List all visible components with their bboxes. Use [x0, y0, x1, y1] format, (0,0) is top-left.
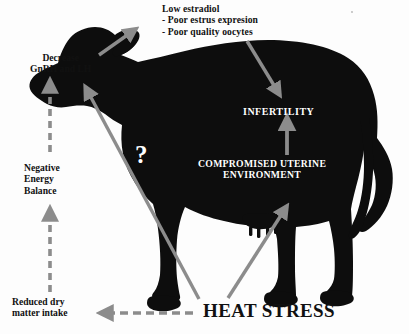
label-infertility: INFERTILITY	[243, 106, 314, 118]
label-decrease-gnrh-lh: Decrease GnRH and LH	[30, 52, 91, 75]
label-reduced-dry-matter-intake-line2: matter intake	[12, 307, 68, 318]
label-negative-energy-balance-line1: Negative	[24, 162, 60, 173]
label-negative-energy-balance-line2: Energy	[24, 173, 60, 184]
label-heat-stress: HEAT STRESS	[203, 300, 335, 322]
label-compromised-uterine-environment-line1: COMPROMISED UTERINE	[198, 158, 326, 169]
label-decrease-gnrh-lh-line2: GnRH and LH	[30, 63, 91, 74]
label-low-estradiol-line2: - Poor estrus expresion	[162, 14, 258, 25]
label-question-mark: ?	[135, 140, 148, 170]
label-negative-energy-balance: Negative Energy Balance	[24, 162, 60, 196]
label-compromised-uterine-environment-line2: ENVIRONMENT	[198, 169, 326, 180]
label-low-estradiol-line1: Low estradiol	[162, 3, 258, 14]
label-low-estradiol-line3: - Poor quality oocytes	[162, 26, 258, 37]
label-reduced-dry-matter-intake: Reduced dry matter intake	[12, 296, 68, 319]
label-low-estradiol: Low estradiol - Poor estrus expresion - …	[162, 3, 258, 37]
label-compromised-uterine-environment: COMPROMISED UTERINE ENVIRONMENT	[198, 158, 326, 181]
label-negative-energy-balance-line3: Balance	[24, 185, 60, 196]
scan-speck	[351, 11, 353, 13]
label-reduced-dry-matter-intake-line1: Reduced dry	[12, 296, 68, 307]
label-decrease-gnrh-lh-line1: Decrease	[30, 52, 91, 63]
diagram-canvas: Low estradiol - Poor estrus expresion - …	[0, 0, 409, 334]
